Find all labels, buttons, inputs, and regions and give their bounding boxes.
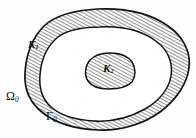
label-k2: K2 bbox=[103, 63, 114, 75]
label-k1-subscript: 1 bbox=[35, 43, 38, 50]
label-omega0-subscript: 0 bbox=[15, 96, 19, 104]
label-k1: K1 bbox=[28, 39, 39, 51]
label-omega0-symbol: Ω bbox=[6, 89, 15, 103]
figure-container: K1 K2 Ω0 Γ0 bbox=[0, 0, 196, 138]
label-gamma0-symbol: Γ bbox=[46, 109, 53, 123]
label-k2-subscript: 2 bbox=[110, 67, 113, 74]
label-gamma0: Γ0 bbox=[46, 110, 57, 124]
label-gamma0-subscript: 0 bbox=[53, 116, 57, 124]
label-omega0: Ω0 bbox=[6, 90, 19, 104]
domain-diagram-svg bbox=[0, 0, 196, 138]
